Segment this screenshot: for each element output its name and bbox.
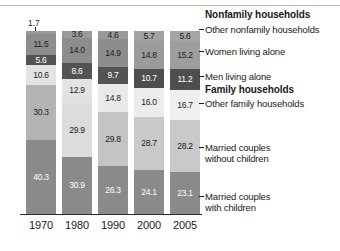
plot-area: 1.7 11.5 5.6 10.6 30.3 40.3 3.6 [0,16,200,214]
legend-label-married-without-line1: Married couples [205,142,270,153]
bar-2005-segment-married-without-children-label: 28.2 [177,142,193,151]
bar-2000-segment-other-family: 16.0 [134,88,164,117]
legend-item-women-living-alone: Women living alone [199,47,285,58]
legend-leader-dash-other-family [199,103,204,104]
bar-2000-segment-men-alone: 10.7 [134,69,164,89]
bar-1970-segment-women-alone: 11.5 [26,34,56,55]
chart-figure: 1.7 11.5 5.6 10.6 30.3 40.3 3.6 [0,0,340,251]
x-axis-line [20,214,202,215]
legend-label-other-family: Other family households [205,98,304,109]
bar-1970-segment-other-family: 10.6 [26,65,56,84]
legend-label-other-nonfamily: Other nonfamily households [205,24,319,35]
bar-1970-segment-married-without-children: 30.3 [26,85,56,140]
bar-2000-segment-women-alone: 14.8 [134,41,164,68]
bar-1980: 3.6 14.0 8.6 12.9 29.9 30.9 [62,31,92,214]
bar-1980-segment-other-nonfamily: 3.6 [62,31,92,38]
bar-2000-segment-women-alone-label: 14.8 [141,51,157,60]
bar-2005-segment-married-without-children: 28.2 [170,120,200,172]
bar-2000-segment-other-nonfamily-label: 5.7 [143,32,154,41]
legend-leader-dash-men-alone [199,76,204,77]
bar-1980-segment-other-family-label: 12.9 [69,86,85,95]
legend-label-married-without-line2: without children [199,154,270,165]
bar-1980-segment-other-nonfamily-label: 3.6 [71,31,82,38]
bar-1980-segment-married-without-children: 29.9 [62,103,92,158]
bar-2000-segment-married-without-children-label: 28.7 [141,139,157,148]
legend-item-married-couples-with-children: Married couples with children [199,192,270,213]
bar-1980-segment-married-with-children-label: 30.9 [69,181,85,190]
legend-item-married-couples-without-children: Married couples without children [199,143,270,164]
bar-1970-segment-women-alone-label: 11.5 [33,40,48,49]
bar-1980-segment-men-alone-label: 8.6 [71,67,82,76]
bar-2000-segment-married-with-children-label: 24.1 [141,188,157,197]
bar-2000-segment-married-with-children: 24.1 [134,170,164,214]
bar-1970-segment-married-with-children-label: 40.3 [33,173,49,182]
bar-2005-segment-women-alone: 15.2 [170,41,200,69]
bar-2005-segment-other-family-label: 16.7 [177,101,193,110]
bar-2000-segment-other-family-label: 16.0 [141,98,157,107]
bar-1970: 1.7 11.5 5.6 10.6 30.3 40.3 [26,31,56,214]
bar-1990-segment-married-without-children-label: 29.8 [105,135,121,144]
bar-2005: 5.6 15.2 11.2 16.7 28.2 23.1 [170,31,200,214]
legend-label-married-with-line1: Married couples [205,191,270,202]
bar-1980-segment-married-without-children-label: 29.9 [69,126,85,135]
bar-2000-segment-men-alone-label: 10.7 [141,74,157,83]
bar-1970-segment-married-with-children: 40.3 [26,140,56,214]
legend-leader-dash-other-nonfamily [199,29,204,30]
bar-1980-segment-women-alone-label: 14.0 [69,46,85,55]
bar-2000-segment-other-nonfamily: 5.7 [134,31,164,41]
bar-2005-segment-married-with-children-label: 23.1 [177,189,193,198]
legend-label-married-with-line2: with children [199,203,270,214]
legend-leader-dash-married-with [199,196,204,197]
bar-1990-segment-men-alone: 9.7 [98,67,128,85]
bar-2005-segment-other-family: 16.7 [170,90,200,121]
bar-1970-segment-married-without-children-label: 30.3 [33,108,49,117]
legend-item-other-family-households: Other family households [199,99,304,110]
bar-2005-segment-men-alone-label: 11.2 [177,75,192,84]
bar-1980-segment-other-family: 12.9 [62,79,92,103]
bar-1990-segment-married-with-children: 26.3 [98,166,128,214]
bar-1990-segment-married-without-children: 29.8 [98,112,128,167]
bar-1970-segment-other-family-label: 10.6 [33,71,49,80]
legend-heading-nonfamily-households: Nonfamily households [205,10,310,21]
legend-item-other-nonfamily-households: Other nonfamily households [199,25,319,36]
bar-1990-segment-women-alone-label: 14.9 [105,49,121,58]
bar-1980-segment-women-alone: 14.0 [62,38,92,64]
bar-2000-segment-married-without-children: 28.7 [134,117,164,170]
bar-1990-segment-married-with-children-label: 26.3 [105,186,121,195]
top-divider-rule [0,5,340,6]
legend-leader-dash-married-without [199,147,204,148]
bar-1970-segment-men-alone: 5.6 [26,55,56,65]
legend-label-men-alone: Men living alone [205,71,271,82]
bar-1990-segment-other-family-label: 14.8 [105,94,121,103]
bar-2005-segment-women-alone-label: 15.2 [177,51,193,60]
legend-heading-family-households: Family households [205,85,294,96]
bar-2005-segment-married-with-children: 23.1 [170,172,200,214]
legend-label-women-alone: Women living alone [205,46,285,57]
legend-leader-dash-women-alone [199,51,204,52]
bar-1990-segment-men-alone-label: 9.7 [107,71,118,80]
bar-1980-segment-married-with-children: 30.9 [62,157,92,214]
bar-2005-segment-men-alone: 11.2 [170,69,200,90]
bar-2005-segment-other-nonfamily-label: 5.6 [179,32,190,41]
bar-1990: 4.6 14.9 9.7 14.8 29.8 26.3 [98,31,128,214]
bar-1990-segment-other-family: 14.8 [98,84,128,111]
bar-1990-segment-other-nonfamily: 4.6 [98,31,128,39]
bar-1980-segment-men-alone: 8.6 [62,63,92,79]
bar-2000: 5.7 14.8 10.7 16.0 28.7 24.1 [134,31,164,214]
x-axis-tick-2005: 2005 [163,219,207,231]
bar-1990-segment-other-nonfamily-label: 4.6 [107,31,118,39]
bar-1970-segment-other-nonfamily-callout-label: 1.7 [28,19,40,28]
bar-1970-segment-men-alone-label: 5.6 [35,56,46,65]
bar-2005-segment-other-nonfamily: 5.6 [170,31,200,41]
legend-item-men-living-alone: Men living alone [199,72,271,83]
bar-1990-segment-women-alone: 14.9 [98,39,128,66]
